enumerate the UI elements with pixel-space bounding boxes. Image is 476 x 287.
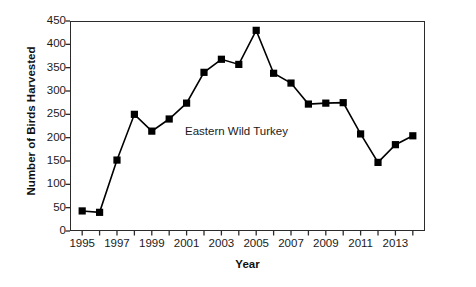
x-axis-title: Year xyxy=(70,258,425,270)
y-axis-tick-label: 0 xyxy=(32,225,66,237)
y-axis-tick-label: 350 xyxy=(32,62,66,74)
y-axis-tick-label: 450 xyxy=(32,15,66,27)
x-axis-tick-label: 2013 xyxy=(373,238,417,250)
y-axis-tick-label: 250 xyxy=(32,108,66,120)
series-annotation-label: Eastern Wild Turkey xyxy=(185,125,288,137)
y-axis-tick-label: 150 xyxy=(32,155,66,167)
x-axis-ticks xyxy=(82,231,413,236)
y-axis-tick-label: 50 xyxy=(32,202,66,214)
y-axis-tick-label: 400 xyxy=(32,38,66,50)
y-axis-tick-label: 100 xyxy=(32,178,66,190)
y-axis-title: Number of Birds Harvested xyxy=(25,21,37,221)
y-axis-tick-label: 200 xyxy=(32,132,66,144)
chart-container: 050100150200250300350400450 199519971999… xyxy=(0,0,476,287)
y-axis-tick-label: 300 xyxy=(32,85,66,97)
